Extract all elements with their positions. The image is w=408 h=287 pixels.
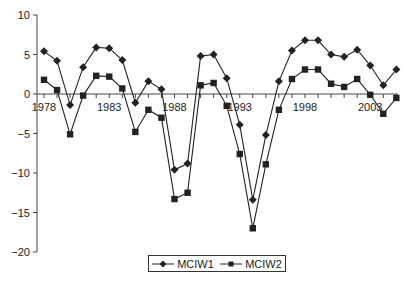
x-tick-label: 1983 xyxy=(97,101,121,113)
square-marker xyxy=(224,103,230,109)
square-marker xyxy=(237,151,243,157)
square-marker xyxy=(67,131,73,137)
diamond-marker xyxy=(66,101,74,109)
square-marker xyxy=(132,129,138,135)
diamond-marker xyxy=(171,166,179,174)
square-marker xyxy=(210,80,216,86)
legend-label-mciw1: MCIW1 xyxy=(177,258,214,270)
diamond-icon xyxy=(152,259,174,269)
square-marker xyxy=(289,76,295,82)
square-marker xyxy=(54,87,60,93)
diamond-marker xyxy=(92,43,100,51)
diamond-marker xyxy=(144,77,152,85)
square-marker xyxy=(380,111,386,117)
diamond-marker xyxy=(275,77,283,85)
square-marker xyxy=(315,66,321,72)
square-marker xyxy=(197,82,203,88)
diamond-marker xyxy=(197,52,205,60)
square-marker xyxy=(106,73,112,79)
square-marker xyxy=(184,190,190,196)
square-marker xyxy=(328,81,334,87)
square-marker xyxy=(171,196,177,202)
y-tick-label: 10 xyxy=(18,9,30,21)
diamond-marker xyxy=(40,47,48,55)
square-icon xyxy=(220,259,242,269)
y-tick-label: −10 xyxy=(11,167,30,179)
diamond-marker xyxy=(79,63,87,71)
series-mciw2 xyxy=(41,66,400,231)
square-marker xyxy=(341,84,347,90)
x-tick-label: 1993 xyxy=(228,101,252,113)
legend-item-mciw1: MCIW1 xyxy=(152,258,214,270)
diamond-marker xyxy=(249,196,257,204)
square-marker xyxy=(250,225,256,231)
y-tick-label: 5 xyxy=(24,49,30,61)
square-marker xyxy=(119,85,125,91)
x-tick-label: 1988 xyxy=(162,101,186,113)
y-tick-label: −15 xyxy=(11,207,30,219)
square-marker xyxy=(80,92,86,98)
square-marker xyxy=(41,77,47,83)
legend-item-mciw2: MCIW2 xyxy=(220,258,282,270)
diamond-marker xyxy=(236,121,244,129)
legend-label-mciw2: MCIW2 xyxy=(245,258,282,270)
square-marker xyxy=(354,76,360,82)
chart-legend: MCIW1 MCIW2 xyxy=(148,255,286,272)
diamond-marker xyxy=(340,53,348,61)
square-marker xyxy=(276,107,282,113)
y-tick-label: −20 xyxy=(11,246,30,258)
y-tick-label: −5 xyxy=(17,128,30,140)
square-marker xyxy=(93,73,99,79)
x-tick-label: 1978 xyxy=(32,101,56,113)
square-marker xyxy=(302,66,308,72)
diamond-marker xyxy=(157,85,165,93)
series-mciw1 xyxy=(40,36,400,204)
square-marker xyxy=(263,161,269,167)
diamond-marker xyxy=(223,74,231,82)
square-marker xyxy=(145,107,151,113)
x-tick-label: 1998 xyxy=(293,101,317,113)
diamond-marker xyxy=(131,99,139,107)
line-chart: 1050−5−10−15−20197819831988199319982003 xyxy=(0,0,408,287)
square-marker xyxy=(367,92,373,98)
diamond-marker xyxy=(53,57,61,65)
square-marker xyxy=(158,115,164,121)
y-tick-label: 0 xyxy=(24,88,30,100)
square-marker xyxy=(393,95,399,101)
diamond-marker xyxy=(262,131,270,139)
diamond-marker xyxy=(210,51,218,59)
